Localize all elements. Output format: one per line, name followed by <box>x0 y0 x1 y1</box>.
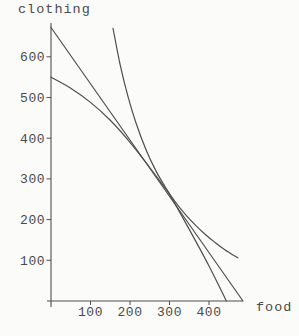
tick-group: 100200300400100200300400500600 <box>20 50 221 320</box>
y-tick-label: 100 <box>20 254 45 269</box>
y-tick-label: 400 <box>20 132 45 147</box>
y-tick-label: 200 <box>20 213 45 228</box>
y-tick-label: 600 <box>20 50 45 65</box>
plot-canvas: clothing food 10020030040010020030040050… <box>0 0 299 336</box>
x-axis-title: food <box>256 300 292 315</box>
concave-curve <box>51 77 226 301</box>
x-tick-label: 200 <box>118 305 143 320</box>
y-axis-title: clothing <box>18 2 91 17</box>
x-tick-label: 300 <box>157 305 182 320</box>
y-tick-label: 300 <box>20 172 45 187</box>
x-tick-label: 100 <box>78 305 103 320</box>
curve-group <box>51 27 243 301</box>
x-tick-label: 400 <box>197 305 222 320</box>
y-tick-label: 500 <box>20 91 45 106</box>
indifference-curve-figure: clothing food 10020030040010020030040050… <box>0 0 299 336</box>
